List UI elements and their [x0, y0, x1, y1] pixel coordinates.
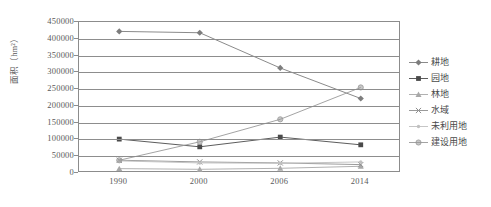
- plot-area: [78, 21, 400, 172]
- gridline: [79, 89, 399, 90]
- y-axis-tick-label: 150000: [0, 117, 74, 126]
- legend-item-未利用地[interactable]: 未利用地: [408, 120, 491, 133]
- gridline: [79, 139, 399, 140]
- gridline: [79, 123, 399, 124]
- legend-marker-icon: [408, 136, 430, 149]
- y-axis-tick-label: 200000: [0, 100, 74, 109]
- y-axis-tick-label: 50000: [0, 151, 74, 160]
- gridline: [79, 39, 399, 40]
- legend-label: 林地: [430, 88, 449, 101]
- series-园地: [117, 135, 363, 150]
- legend-item-园地[interactable]: 园地: [408, 72, 491, 85]
- x-axis-tick-labels: 1990200020062014: [78, 176, 400, 194]
- legend-label: 未利用地: [430, 120, 467, 133]
- gridline: [79, 56, 399, 57]
- legend-item-耕地[interactable]: 耕地: [408, 56, 491, 69]
- y-axis-tick-label: 350000: [0, 50, 74, 59]
- y-axis-tick-label: 450000: [0, 17, 74, 26]
- y-axis-tick-label: 300000: [0, 67, 74, 76]
- y-axis-tick-label: 400000: [0, 33, 74, 42]
- legend-item-水域[interactable]: 水域: [408, 104, 491, 117]
- legend-item-建设用地[interactable]: 建设用地: [408, 136, 491, 149]
- series-林地: [116, 163, 364, 171]
- gridline: [79, 156, 399, 157]
- legend-label: 建设用地: [430, 136, 467, 149]
- y-axis-tick-labels: 4500004000003500003000002500002000001500…: [0, 21, 74, 172]
- legend-marker-icon: [408, 72, 430, 85]
- legend-label: 水域: [430, 104, 449, 117]
- y-axis-tick-mark: [74, 172, 78, 173]
- series-layer: [79, 22, 401, 173]
- series-建设用地: [117, 85, 364, 163]
- legend-marker-icon: [408, 104, 430, 117]
- x-axis-tick-label: 2000: [169, 176, 229, 186]
- y-axis-tick-label: 0: [0, 168, 74, 177]
- legend-marker-icon: [408, 88, 430, 101]
- x-axis-tick-label: 2014: [330, 176, 390, 186]
- y-axis-tick-label: 100000: [0, 134, 74, 143]
- legend-item-林地[interactable]: 林地: [408, 88, 491, 101]
- legend-label: 耕地: [430, 56, 449, 69]
- legend-marker-icon: [408, 120, 430, 133]
- gridline: [79, 72, 399, 73]
- x-axis-tick-label: 2006: [249, 176, 309, 186]
- gridline: [79, 106, 399, 107]
- legend-label: 园地: [430, 72, 449, 85]
- y-axis-tick-label: 250000: [0, 84, 74, 93]
- x-axis-tick-label: 1990: [88, 176, 148, 186]
- legend-marker-icon: [408, 56, 430, 69]
- chart-legend: 耕地园地林地水域未利用地建设用地: [408, 56, 491, 149]
- line-chart: 面积（hm²） 45000040000035000030000025000020…: [0, 0, 491, 207]
